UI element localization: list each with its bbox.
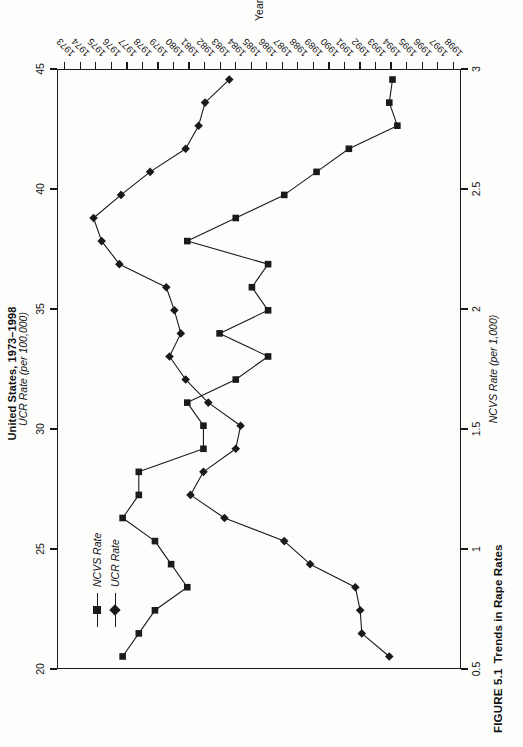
y-left-axis-title: NCVS Rate (per 1,000)	[487, 315, 499, 424]
figure-caption-number: FIGURE 5.1	[492, 668, 504, 733]
x-tickmark	[173, 62, 174, 69]
y-right-tickmark	[50, 308, 57, 309]
x-tickmark	[64, 62, 65, 69]
x-tickmark	[251, 62, 252, 69]
y-left-tickmark	[461, 188, 468, 189]
y-left-tick-label: 2	[470, 306, 482, 312]
y-right-tickmark	[50, 668, 57, 669]
y-left-tickmark	[461, 68, 468, 69]
y-right-tick-label: 35	[34, 303, 46, 315]
rotated-figure-canvas: United States, 1973–1998 NCVS Rate UC	[0, 0, 523, 747]
y-right-tickmark	[50, 428, 57, 429]
x-tickmark	[157, 62, 158, 69]
x-tickmark	[266, 62, 267, 69]
y-left-tick-label: 0.5	[470, 662, 482, 677]
y-left-tick-label: 2.5	[470, 182, 482, 197]
x-tickmark	[422, 62, 423, 69]
figure-caption-text: Trends in Rape Rates	[492, 544, 504, 663]
x-tickmark	[95, 62, 96, 69]
x-tickmark	[406, 62, 407, 69]
x-tickmark	[375, 62, 376, 69]
y-right-tickmark	[50, 548, 57, 549]
legend-item-ucr: UCR Rate	[106, 533, 124, 627]
x-tickmark	[328, 62, 329, 69]
legend-label-ucr: UCR Rate	[109, 539, 121, 587]
y-left-tickmark	[461, 308, 468, 309]
y-right-tick-label: 45	[34, 63, 46, 75]
y-right-tick-label: 40	[34, 183, 46, 195]
x-tickmark	[313, 62, 314, 69]
legend-marker-square-icon	[91, 593, 103, 627]
x-axis-title: Year	[253, 0, 265, 21]
legend-marker-diamond-icon	[109, 593, 121, 627]
y-right-tickmark	[50, 68, 57, 69]
legend-label-ncvs: NCVS Rate	[91, 533, 103, 587]
y-left-tickmark	[461, 428, 468, 429]
x-tickmark	[188, 62, 189, 69]
x-tickmark	[359, 62, 360, 69]
y-right-tick-label: 30	[34, 423, 46, 435]
legend: NCVS Rate UCR Rate	[88, 533, 124, 627]
y-left-tick-label: 1	[470, 546, 482, 552]
y-right-tick-label: 20	[34, 663, 46, 675]
y-right-axis-title: UCR Rate (per 100,000)	[17, 312, 29, 426]
x-tickmark	[204, 62, 205, 69]
x-tickmark	[220, 62, 221, 69]
x-tickmark	[282, 62, 283, 69]
figure-page: United States, 1973–1998 NCVS Rate UC	[0, 0, 523, 747]
x-tickmark	[80, 62, 81, 69]
x-tickmark	[390, 62, 391, 69]
y-right-tickmark	[50, 188, 57, 189]
figure-caption: FIGURE 5.1Trends in Rape Rates	[492, 544, 504, 733]
y-left-tickmark	[461, 668, 468, 669]
x-tick-label-year: 1998	[442, 36, 465, 59]
x-tickmark	[437, 62, 438, 69]
x-tickmark	[126, 62, 127, 69]
y-left-tickmark	[461, 548, 468, 549]
x-tickmark	[344, 62, 345, 69]
y-right-tick-label: 25	[34, 543, 46, 555]
x-tickmark	[111, 62, 112, 69]
x-tickmark	[235, 62, 236, 69]
y-left-tick-label: 1.5	[470, 422, 482, 437]
x-tickmark	[297, 62, 298, 69]
x-tickmark	[142, 62, 143, 69]
figure: United States, 1973–1998 NCVS Rate UC	[0, 0, 523, 747]
x-tickmark	[453, 62, 454, 69]
y-left-tick-label: 3	[470, 66, 482, 72]
legend-item-ncvs: NCVS Rate	[88, 533, 106, 627]
